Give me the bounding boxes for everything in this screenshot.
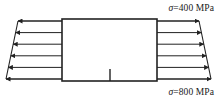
right-distribution-boundary-line bbox=[199, 21, 211, 79]
stress-diagram-figure: σ=400 MPa σ=800 MPa bbox=[0, 0, 217, 101]
right-stress-distribution bbox=[157, 21, 211, 79]
left-stress-distribution bbox=[6, 21, 62, 79]
bottom-stress-value: 800 bbox=[179, 87, 194, 97]
left-distribution-boundary-line bbox=[6, 21, 18, 79]
top-stress-label: σ=400 MPa bbox=[168, 4, 214, 14]
top-stress-unit: MPa bbox=[196, 3, 214, 13]
top-stress-value: 400 bbox=[179, 3, 194, 13]
bottom-stress-unit: MPa bbox=[196, 87, 214, 97]
bottom-stress-label: σ=800 MPa bbox=[168, 88, 214, 98]
